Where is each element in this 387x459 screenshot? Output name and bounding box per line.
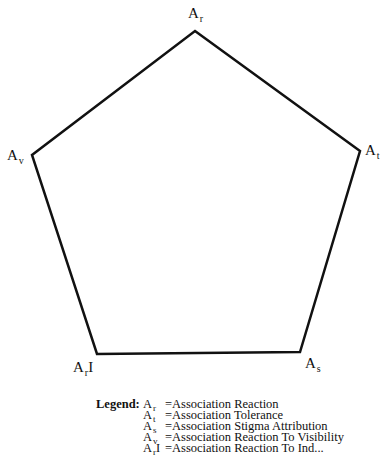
vertex-symbol: A: [365, 142, 376, 158]
vertex-label-association-reaction-i: ArI: [73, 360, 93, 375]
vertex-subscript: v: [19, 155, 24, 166]
legend-symbol-suffix: I: [156, 441, 160, 455]
vertex-symbol: A: [188, 5, 199, 21]
vertex-subscript: t: [377, 150, 380, 161]
vertex-symbol: A: [73, 359, 84, 375]
legend-symbol-subscript: r: [153, 447, 156, 457]
pentagon-shape: [0, 0, 387, 459]
vertex-symbol: A: [305, 355, 316, 371]
vertex-label-association-reaction-to-visibility: Av: [7, 148, 24, 163]
vertex-symbol: A: [7, 147, 18, 163]
vertex-suffix: I: [88, 359, 93, 375]
legend-symbol: ArI: [143, 443, 165, 455]
legend-definition: =Association Reaction To Ind...: [165, 443, 324, 454]
legend-symbol-base: A: [143, 441, 152, 455]
vertex-subscript: r: [200, 13, 203, 24]
vertex-label-association-stigma-attribution: As: [305, 356, 321, 371]
vertex-subscript: s: [317, 363, 321, 374]
vertex-label-association-reaction: Ar: [188, 6, 203, 21]
vertex-subscript: r: [85, 367, 88, 378]
legend-title: Legend:: [96, 399, 140, 410]
pentagon-diagram: Ar At As ArI Av: [0, 0, 387, 459]
vertex-label-association-tolerance: At: [365, 143, 380, 158]
legend-item: ArI=Association Reaction To Ind...: [143, 443, 324, 454]
